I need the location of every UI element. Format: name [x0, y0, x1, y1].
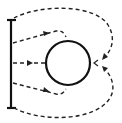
diagram-canvas: [0, 0, 122, 123]
rear-mark-icon: [94, 60, 98, 66]
lower-arrow-icon: [43, 87, 50, 92]
circle-obstacle: [46, 41, 90, 85]
lower-path: [13, 83, 66, 94]
upper-path: [13, 31, 66, 43]
source-bar: [7, 20, 16, 108]
outer-bottom-arrow-icon: [102, 66, 108, 72]
outer-top-arrow-icon: [102, 53, 108, 60]
upper-arrow-icon: [43, 31, 50, 36]
flow-diagram: [0, 0, 122, 123]
middle-arrow-icon: [27, 60, 33, 66]
